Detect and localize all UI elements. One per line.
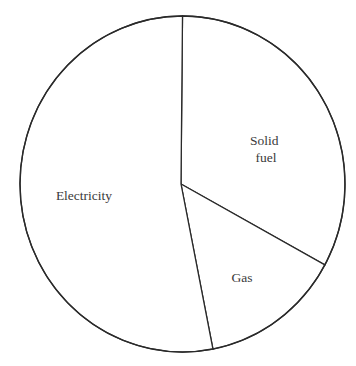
pie-slices xyxy=(20,16,345,352)
label-gas: Gas xyxy=(232,270,253,285)
label-electricity: Electricity xyxy=(56,188,112,203)
pie-chart: Solid fuel Gas Electricity xyxy=(0,0,356,366)
